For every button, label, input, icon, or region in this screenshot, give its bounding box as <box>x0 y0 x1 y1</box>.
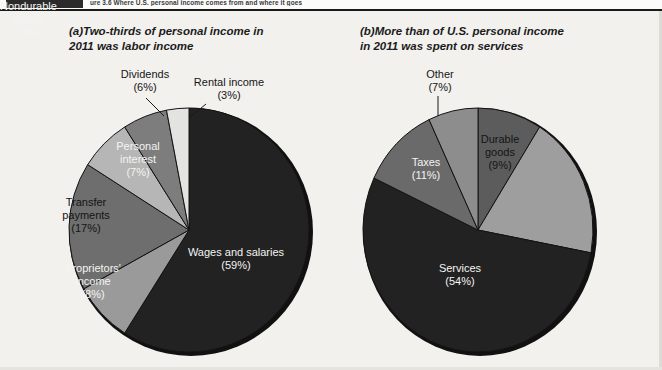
label-rental-income: Rental income (3%) <box>186 76 272 102</box>
panel-a-title-text: Two-thirds of personal income in 2011 wa… <box>69 25 263 52</box>
panel-b-title: (b)More than of U.S. personal income in … <box>360 24 610 53</box>
label-proprietors-income: Proprietors' income (8%) <box>52 262 134 301</box>
panel-a-tag: (a) <box>69 25 83 37</box>
panel-a-title: (a)Two-thirds of personal income in 2011… <box>69 24 299 53</box>
label-taxes: Taxes (11%) <box>398 156 454 182</box>
label-wages-and-salaries: Wages and salaries (59%) <box>172 246 300 272</box>
figure-banner: ure 3.6 Where U.S. personal income comes… <box>0 0 662 9</box>
label-durable-goods: Durable goods (9%) <box>469 133 531 172</box>
label-transfer-payments: Transfer payments (17%) <box>44 196 128 235</box>
figure-container: ure 3.6 Where U.S. personal income comes… <box>0 0 662 370</box>
figure-banner-caption: ure 3.6 Where U.S. personal income comes… <box>90 0 302 6</box>
label-nondurable-goods: Nondurable goods (19%) <box>0 0 57 39</box>
panel-b-title-text: More than of U.S. personal income in 201… <box>360 25 564 52</box>
label-personal-interest: Personal interest (7%) <box>104 140 172 179</box>
panel-b-tag: (b) <box>360 25 375 37</box>
label-other: Other (7%) <box>412 68 468 94</box>
label-dividends: Dividends (6%) <box>113 68 177 94</box>
label-services: Services (54%) <box>418 262 502 288</box>
